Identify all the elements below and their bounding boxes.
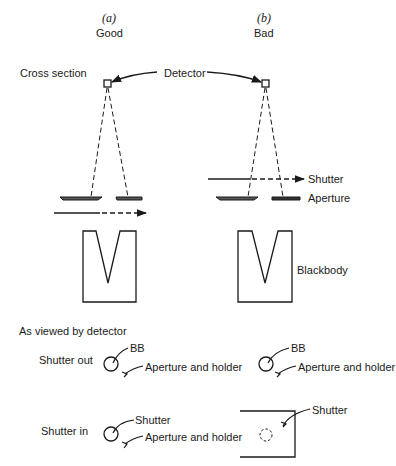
detector-label: Detector	[164, 68, 206, 79]
bad-shutter-out-top-label: BB	[291, 343, 306, 354]
good-shutter-out-top-label: BB	[130, 343, 145, 354]
viewed-title: As viewed by detector	[19, 326, 127, 337]
aperture-label: Aperture	[308, 193, 350, 204]
fov-line	[91, 88, 107, 197]
column-b-label: Bad	[254, 28, 274, 39]
cross-section-title: Cross section	[20, 68, 87, 79]
fov-line	[108, 88, 128, 197]
bb-leader	[113, 348, 128, 363]
row-shutter-out-label: Shutter out	[39, 355, 93, 366]
bad-shutter-in-top-label: Shutter	[312, 405, 347, 416]
aperture-leader	[278, 366, 296, 374]
column-b-letter: (b)	[257, 12, 271, 24]
row-shutter-in-label: Shutter in	[41, 426, 88, 437]
aperture-leader	[125, 366, 143, 374]
shutter-leader	[113, 420, 134, 433]
blackbody-label: Blackbody	[297, 265, 348, 276]
hidden-aperture-icon	[260, 429, 272, 441]
aperture-bad-left	[216, 197, 258, 200]
good-shutter-out-bottom-label: Aperture and holder	[145, 362, 242, 373]
detector-good-icon	[104, 80, 111, 87]
bb-leader	[268, 348, 289, 363]
detector-leader-left	[112, 72, 157, 82]
blackbody-bad-icon	[238, 231, 292, 302]
aperture-good-right	[116, 197, 142, 200]
bad-shutter-out-bottom-label: Aperture and holder	[298, 362, 395, 373]
aperture-leader	[125, 436, 143, 444]
shutter-label: Shutter	[308, 174, 343, 185]
blackbody-good-icon	[83, 231, 136, 302]
column-a-label: Good	[96, 28, 123, 39]
good-shutter-in-top-label: Shutter	[135, 415, 170, 426]
column-a-letter: (a)	[102, 12, 116, 24]
good-shutter-in-bottom-label: Aperture and holder	[145, 432, 242, 443]
detector-bad-icon	[262, 80, 269, 87]
shutter-plate-outline	[240, 411, 295, 457]
detector-leader-right	[207, 72, 261, 82]
fov-line	[266, 88, 283, 197]
fov-line	[248, 88, 265, 197]
view-circle-icon	[104, 357, 118, 371]
aperture-good-left	[60, 197, 102, 200]
aperture-bad-right	[272, 197, 300, 200]
